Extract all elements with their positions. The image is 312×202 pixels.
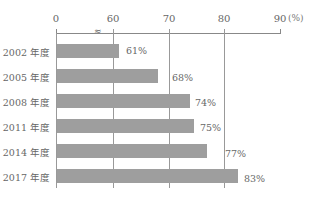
category-label: 2005 年度: [0, 70, 50, 84]
bar-2008: [57, 94, 190, 108]
x-tick-60: 60: [107, 13, 120, 24]
value-label: 74%: [195, 97, 216, 108]
value-label: 83%: [244, 173, 265, 184]
x-tick-90: 90: [274, 13, 287, 24]
category-label: 2002 年度: [0, 45, 50, 59]
gridline-80: [224, 29, 225, 188]
gridline-70: [169, 29, 170, 188]
category-label: 2017 年度: [0, 170, 50, 184]
bar-chart: 0 60 70 80 90 (%) ≈ 2002 年度 61% 2005 年度 …: [0, 0, 312, 202]
bar-2011: [57, 119, 194, 133]
value-label: 75%: [200, 122, 221, 133]
bar-2014: [57, 144, 207, 158]
category-label: 2008 年度: [0, 95, 50, 109]
value-label: 77%: [225, 148, 246, 159]
x-tick-80: 80: [218, 13, 231, 24]
category-label: 2011 年度: [0, 120, 50, 134]
tick-mark: [280, 29, 281, 34]
bar-2017: [57, 169, 238, 183]
value-label: 68%: [172, 72, 193, 83]
value-label: 61%: [126, 45, 147, 56]
category-label: 2014 年度: [0, 145, 50, 159]
x-tick-0: 0: [53, 13, 59, 24]
bar-2002: [57, 44, 119, 58]
x-tick-70: 70: [163, 13, 176, 24]
bar-2005: [57, 69, 158, 83]
x-axis-unit: (%): [288, 13, 304, 23]
axis-break-icon: ≈: [94, 26, 102, 36]
